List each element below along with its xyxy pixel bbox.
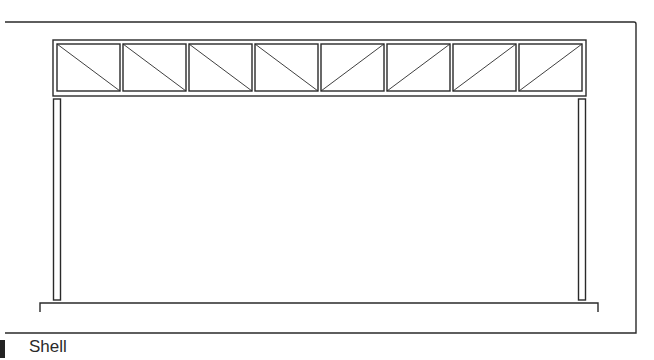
truss-diagonal	[519, 44, 582, 91]
shell-diagram	[0, 0, 654, 360]
truss-diagonal	[321, 44, 384, 91]
right-column	[579, 99, 586, 300]
truss-outer-chord	[53, 40, 586, 96]
caption-marker	[0, 340, 5, 358]
figure-caption: Shell	[29, 337, 67, 357]
truss-diagonal	[255, 44, 318, 91]
truss-diagonal	[123, 44, 186, 91]
truss-diagonal	[387, 44, 450, 91]
truss-diagonal	[453, 44, 516, 91]
floor-base	[40, 303, 598, 312]
truss-panels	[57, 44, 582, 91]
truss-diagonal	[189, 44, 252, 91]
left-column	[54, 99, 61, 300]
truss-diagonal	[57, 44, 120, 91]
